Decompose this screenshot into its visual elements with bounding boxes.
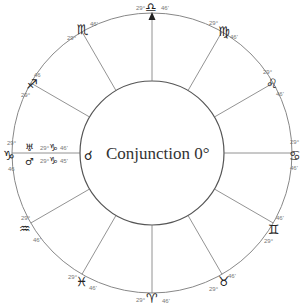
capricorn-icon: ♑ bbox=[49, 155, 58, 166]
svg-text:46': 46' bbox=[33, 237, 41, 243]
libra-icon: ♎ bbox=[145, 0, 157, 15]
svg-text:46: 46 bbox=[8, 166, 15, 172]
capricorn-icon: ♑ bbox=[49, 142, 58, 153]
svg-text:29°: 29° bbox=[7, 140, 17, 146]
taurus-icon: ♉ bbox=[218, 274, 230, 289]
svg-text:29°: 29° bbox=[264, 238, 274, 244]
svg-text:45': 45' bbox=[60, 158, 68, 164]
sagittarius-icon: ♐ bbox=[26, 77, 38, 92]
mars-icon: ♂ bbox=[25, 156, 34, 167]
sign-virgo: 29° ♍ 46' bbox=[209, 20, 238, 40]
uranus-icon: ♅ bbox=[25, 142, 34, 153]
sign-capricorn: 29° ♑ 46 bbox=[3, 140, 17, 172]
svg-text:46': 46' bbox=[162, 298, 170, 304]
virgo-icon: ♍ bbox=[218, 24, 230, 39]
sign-aries: 29° ♈ 46' bbox=[136, 291, 170, 306]
cancer-icon: ♋ bbox=[289, 148, 301, 163]
capricorn-icon: ♑ bbox=[3, 148, 15, 163]
zodiac-chart: 29° ♎ 46' 29° ♍ 46' 29° ♌ 46' 29° ♋ 46' … bbox=[0, 0, 303, 306]
scorpio-icon: ♏ bbox=[77, 22, 89, 37]
svg-text:46': 46' bbox=[230, 34, 238, 40]
aries-icon: ♈ bbox=[146, 291, 158, 306]
svg-text:29°: 29° bbox=[136, 297, 146, 303]
pisces-icon: ♓ bbox=[76, 274, 88, 289]
planet-uranus[interactable]: ♅ 29° ♑ 46' bbox=[25, 142, 68, 153]
svg-text:29°: 29° bbox=[21, 92, 31, 98]
svg-text:46': 46' bbox=[90, 21, 98, 27]
leo-icon: ♌ bbox=[266, 76, 278, 91]
planet-mars[interactable]: ♂ 29° ♑ 45' bbox=[25, 155, 68, 167]
sign-pisces: 29° ♓ 46' bbox=[68, 274, 97, 291]
svg-text:29°: 29° bbox=[67, 35, 77, 41]
svg-text:46': 46' bbox=[276, 91, 284, 97]
gemini-icon: ♊ bbox=[268, 222, 280, 237]
svg-text:46': 46' bbox=[60, 145, 68, 151]
svg-text:46': 46' bbox=[290, 165, 298, 171]
aquarius-icon: ♒ bbox=[19, 221, 31, 236]
svg-text:29°: 29° bbox=[263, 69, 273, 75]
svg-text:46': 46' bbox=[89, 285, 97, 291]
sign-libra: 29° ♎ 46' bbox=[136, 0, 169, 15]
svg-text:29°: 29° bbox=[209, 286, 219, 292]
aspect-text: Conjunction 0° bbox=[106, 144, 210, 163]
svg-text:46': 46' bbox=[161, 5, 169, 11]
sign-cancer: 29° ♋ 46' bbox=[289, 139, 301, 171]
conjunction-icon: ☌ bbox=[84, 148, 93, 163]
svg-text:46': 46' bbox=[276, 215, 284, 221]
sign-taurus: 46' ♉ 29° bbox=[209, 273, 236, 292]
svg-text:29°: 29° bbox=[290, 139, 300, 145]
sign-scorpio: 29° ♏ 46' bbox=[67, 21, 98, 41]
sign-sagittarius: 46 ♐ 29° bbox=[21, 72, 41, 98]
sign-leo: 29° ♌ 46' bbox=[263, 69, 284, 97]
